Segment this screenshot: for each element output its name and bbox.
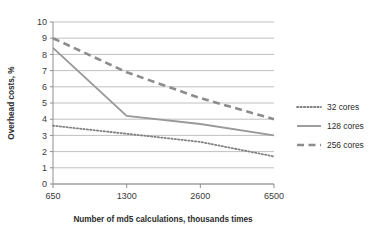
y-tick-label: 0 bbox=[42, 179, 47, 189]
x-tick-label: 6500 bbox=[264, 191, 284, 201]
y-tick-label: 3 bbox=[42, 131, 47, 141]
y-tick-label: 6 bbox=[42, 82, 47, 92]
x-axis-title: Number of md5 calculations, thousands ti… bbox=[73, 215, 253, 224]
y-axis-title: Overhead costs, % bbox=[7, 66, 16, 140]
y-tick-label: 5 bbox=[42, 98, 47, 108]
x-tick-label: 650 bbox=[45, 191, 60, 201]
y-tick-label: 2 bbox=[42, 147, 47, 157]
x-tick-label: 2600 bbox=[190, 191, 210, 201]
chart-container: 012345678910 650130026006500 Overhead co… bbox=[0, 0, 389, 234]
y-tick-label: 10 bbox=[37, 17, 47, 27]
y-tick-label: 8 bbox=[42, 50, 47, 60]
y-tick-label: 4 bbox=[42, 114, 47, 124]
legend-label: 32 cores bbox=[327, 102, 359, 112]
y-tick-label: 7 bbox=[42, 66, 47, 76]
legend-label: 128 cores bbox=[327, 121, 364, 131]
y-tick-label: 9 bbox=[42, 33, 47, 43]
x-tick-label: 1300 bbox=[117, 191, 137, 201]
y-tick-label: 1 bbox=[42, 163, 47, 173]
legend-label: 256 cores bbox=[327, 140, 364, 150]
chart-svg: 012345678910 650130026006500 Overhead co… bbox=[0, 0, 389, 234]
